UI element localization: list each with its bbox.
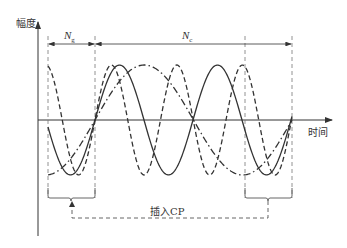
cp-source-bracket [48,188,95,201]
y-axis-label: 幅度 [16,15,36,30]
boundary-guides [48,36,292,198]
insert-cp-label: 插入CP [150,203,184,218]
cp-target-bracket [245,188,292,201]
symbol-length-label: Nc [182,29,192,44]
guard-interval-label: Ng [64,29,75,44]
x-axis-label: 时间 [308,124,328,139]
cp-arrow-head [69,201,75,207]
